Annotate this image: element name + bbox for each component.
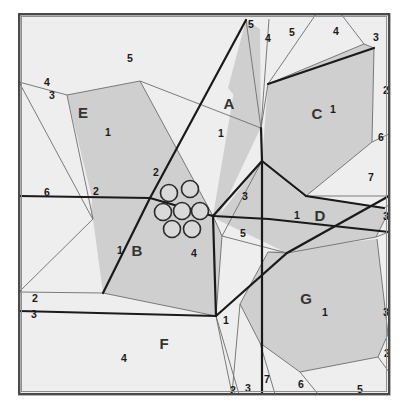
node-bottom-left bbox=[164, 221, 181, 238]
partition-diagram: 54315454312612623713514231312476523 EACB… bbox=[0, 0, 409, 418]
diagram-root: 54315454312612623713514231312476523 EACB… bbox=[0, 0, 409, 418]
number-label-31: 6 bbox=[298, 378, 304, 390]
number-label-15: 2 bbox=[93, 185, 99, 197]
region-label-E: E bbox=[78, 104, 88, 121]
number-label-1: 4 bbox=[44, 76, 50, 88]
node-right bbox=[192, 203, 209, 220]
region-label-F: F bbox=[159, 335, 168, 352]
number-label-23: 2 bbox=[32, 292, 38, 304]
number-label-32: 5 bbox=[357, 383, 363, 395]
number-label-30: 7 bbox=[264, 373, 270, 385]
number-label-3: 1 bbox=[105, 126, 111, 138]
number-label-11: 6 bbox=[378, 131, 384, 143]
number-label-8: 3 bbox=[373, 31, 379, 43]
node-left bbox=[155, 204, 172, 221]
number-label-7: 4 bbox=[333, 25, 339, 37]
number-label-12: 1 bbox=[218, 127, 224, 139]
number-label-22: 4 bbox=[191, 247, 197, 259]
node-top-right bbox=[182, 181, 199, 198]
node-center bbox=[174, 203, 191, 220]
number-label-9: 1 bbox=[330, 103, 336, 115]
number-label-24: 3 bbox=[31, 308, 37, 320]
number-label-6: 5 bbox=[289, 26, 295, 38]
number-label-13: 2 bbox=[153, 166, 159, 178]
number-label-25: 1 bbox=[322, 306, 328, 318]
region-label-D: D bbox=[315, 207, 326, 224]
number-label-0: 5 bbox=[127, 52, 133, 64]
region-label-C: C bbox=[312, 105, 323, 122]
number-label-29: 4 bbox=[121, 352, 127, 364]
number-label-16: 3 bbox=[242, 190, 248, 202]
number-label-2: 3 bbox=[49, 89, 55, 101]
region-label-B: B bbox=[132, 242, 143, 259]
number-label-5: 4 bbox=[265, 32, 271, 44]
number-label-4: 5 bbox=[248, 18, 254, 30]
number-label-27: 1 bbox=[223, 314, 229, 326]
node-bottom-right bbox=[184, 221, 201, 238]
number-label-18: 1 bbox=[294, 209, 300, 221]
number-label-14: 6 bbox=[44, 186, 50, 198]
number-label-20: 5 bbox=[240, 227, 246, 239]
region-label-G: G bbox=[300, 290, 312, 307]
number-label-21: 1 bbox=[117, 244, 123, 256]
region-label-A: A bbox=[224, 95, 235, 112]
number-label-17: 7 bbox=[368, 171, 374, 183]
node-top-left bbox=[161, 185, 178, 202]
thick-edge-5 bbox=[261, 128, 262, 394]
